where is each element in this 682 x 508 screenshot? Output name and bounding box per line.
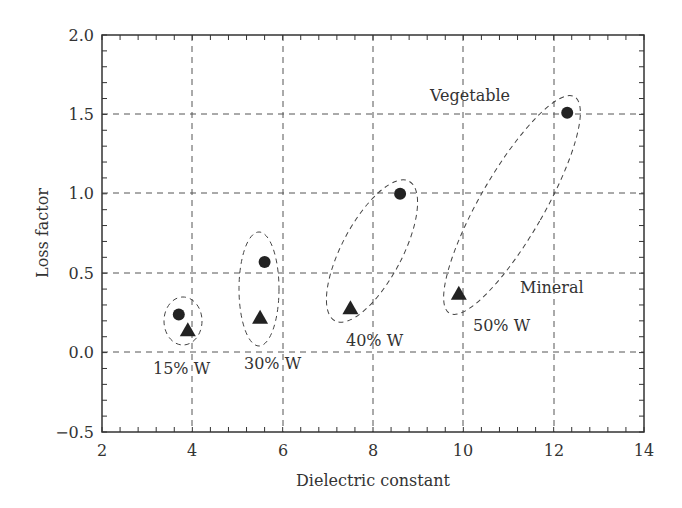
annotation-mineral: Mineral [520, 278, 584, 297]
svg-text:2: 2 [97, 441, 107, 460]
svg-text:12: 12 [544, 441, 564, 460]
annotation-vegetable: Vegetable [429, 86, 510, 105]
svg-text:14: 14 [634, 441, 654, 460]
group-label-50: 50% W [473, 316, 531, 335]
group-label-40: 40% W [346, 331, 404, 350]
svg-text:8: 8 [368, 441, 378, 460]
svg-text:1.5: 1.5 [69, 105, 94, 124]
triangle-marker [180, 322, 196, 336]
svg-text:−0.5: −0.5 [55, 423, 94, 442]
svg-text:6: 6 [278, 441, 288, 460]
svg-text:2.0: 2.0 [69, 26, 94, 45]
circle-marker [259, 256, 271, 268]
x-axis-title: Dielectric constant [296, 471, 451, 490]
triangle-marker [451, 286, 467, 300]
svg-text:0.0: 0.0 [69, 343, 94, 362]
svg-text:1.0: 1.0 [69, 184, 94, 203]
scatter-chart: 2 4 6 8 10 12 14 −0.5 0.0 0.5 1.0 1.5 2.… [0, 0, 682, 508]
svg-text:10: 10 [453, 441, 473, 460]
x-tick-labels: 2 4 6 8 10 12 14 [97, 441, 654, 460]
svg-text:0.5: 0.5 [69, 264, 94, 283]
circle-marker [561, 107, 573, 119]
y-tick-labels: −0.5 0.0 0.5 1.0 1.5 2.0 [55, 26, 94, 442]
circle-marker [394, 188, 406, 200]
group-label-15: 15% W [153, 359, 211, 378]
group-label-30: 30% W [244, 354, 302, 373]
svg-text:4: 4 [187, 441, 197, 460]
y-axis-title: Loss factor [33, 188, 52, 278]
triangle-marker [342, 300, 358, 314]
circle-marker [173, 308, 185, 320]
triangle-marker [252, 310, 268, 324]
group-ellipses [164, 81, 602, 346]
